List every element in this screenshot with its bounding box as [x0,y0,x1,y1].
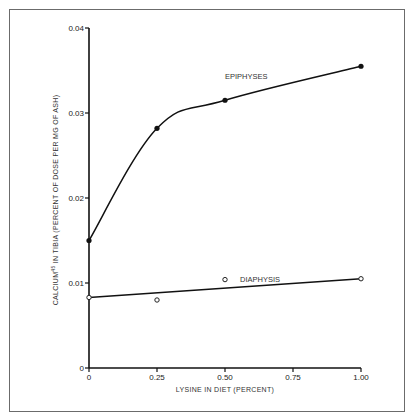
y-tick-label: 0.04 [68,24,84,33]
x-tick-label: 0 [87,373,92,382]
y-axis-title-pre: CALCIUM [52,272,59,306]
x-tick-label: 0.25 [149,373,165,382]
x-tick-label: 0.75 [285,373,301,382]
diaphysis-point [359,277,363,281]
y-tick-label: 0.01 [68,279,84,288]
x-axis-title: LYSINE IN DIET (PERCENT) [176,386,274,394]
y-tick-label: 0.03 [68,109,84,118]
y-tick-label: 0.02 [68,194,84,203]
chart-canvas: 00.010.020.030.0400.250.500.751.00 LYSIN… [0,0,411,420]
series-label-diaphysis: DIAPHYSIS [240,275,280,284]
series-label-epiphyses: EPIPHYSES [225,72,268,81]
diaphysis-point [87,295,91,299]
y-tick-label: 0 [80,364,85,373]
diaphysis-point [223,277,227,281]
epiphyses-point [154,126,159,131]
x-tick-label: 0.50 [217,373,233,382]
epiphyses-curve [89,66,361,240]
data-points [86,64,363,303]
x-tick-label: 1.00 [353,373,369,382]
epiphyses-point [222,98,227,103]
y-axis-title: CALCIUM45 IN TIBIA (PERCENT OF DOSE PER … [50,95,60,306]
diaphysis-point [155,298,159,302]
epiphyses-point [358,64,363,69]
epiphyses-point [86,238,91,243]
axes: 00.010.020.030.0400.250.500.751.00 [68,24,369,382]
y-axis-title-post: IN TIBIA (PERCENT OF DOSE PER MG OF ASH) [52,95,60,266]
